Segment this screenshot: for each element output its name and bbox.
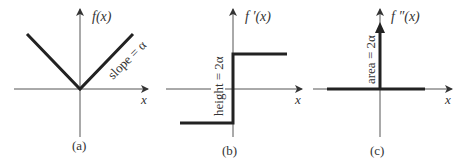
height-annotation: height = 2α	[211, 56, 226, 116]
y-axis-label: f ′(x)	[245, 9, 271, 25]
caption-c: (c)	[370, 143, 384, 158]
caption-a: (a)	[72, 138, 86, 153]
area-annotation: area = 2α	[363, 35, 378, 84]
x-axis-label: x	[140, 92, 147, 107]
x-axis-label: x	[444, 92, 451, 107]
x-axis-label: x	[294, 92, 301, 107]
panel-b: f ′(x) x height = 2α (b)	[166, 9, 302, 158]
panel-c: f ″(x) x area = 2α (c)	[313, 9, 452, 158]
y-axis-label: f(x)	[92, 9, 112, 25]
y-axis-label: f ″(x)	[391, 9, 420, 25]
slope-annotation: slope = α	[105, 37, 150, 82]
delta-arrowhead	[375, 22, 385, 33]
caption-b: (b)	[222, 143, 237, 158]
panel-a: f(x) x slope = α (a)	[14, 9, 149, 153]
derivative-diagram: f(x) x slope = α (a) f ′(x) x height = 2…	[0, 0, 464, 166]
